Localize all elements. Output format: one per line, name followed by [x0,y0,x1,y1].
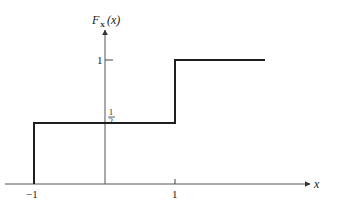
cdf-step-chart: x F X (x) 1 1 2 −1 1 [0,0,345,208]
svg-text:X: X [100,21,105,29]
cdf-step-line [34,60,265,184]
svg-text:2: 2 [109,117,113,126]
y-tick-label-1: 1 [97,54,103,66]
svg-text:(x): (x) [107,13,120,27]
x-tick-label-neg1: −1 [26,188,38,200]
x-axis-label: x [313,177,320,191]
y-axis-label: F X (x) [91,13,120,29]
x-tick-label-1: 1 [172,188,178,200]
svg-text:F: F [91,13,100,27]
svg-text:1: 1 [109,108,113,117]
